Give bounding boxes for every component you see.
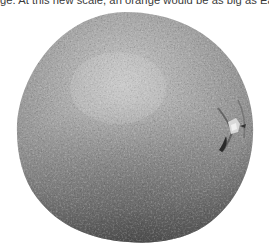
orange-photo	[0, 0, 269, 251]
orange-body	[0, 0, 269, 251]
